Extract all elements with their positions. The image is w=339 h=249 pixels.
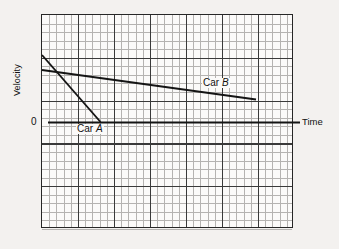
series-line-car-a bbox=[42, 55, 101, 122]
series-label-car-a-name: A bbox=[96, 123, 103, 134]
series-label-car-a: Car A bbox=[76, 124, 104, 134]
x-axis-title: Time bbox=[302, 117, 323, 127]
y-axis-zero-tick-label: 0 bbox=[31, 117, 37, 127]
series-label-car-a-prefix: Car bbox=[77, 123, 96, 134]
series-label-car-b-prefix: Car bbox=[203, 77, 222, 88]
graph-screenshot: Velocity 0 Time Car A Car B bbox=[0, 0, 339, 249]
series-label-car-b-name: B bbox=[222, 77, 229, 88]
series-label-car-b: Car B bbox=[202, 78, 230, 88]
y-axis-title: Velocity bbox=[13, 64, 22, 96]
data-lines-layer bbox=[0, 0, 339, 249]
